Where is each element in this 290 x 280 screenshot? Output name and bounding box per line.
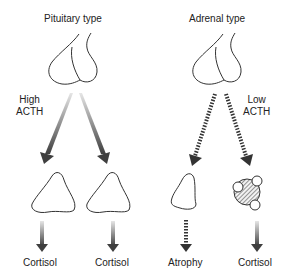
adrenal-gland-hyperplastic-1	[32, 173, 75, 213]
acth-arrow-left-1	[40, 93, 73, 164]
adrenal-type-title: Adrenal type	[189, 13, 245, 25]
pituitary-type-title: Pituitary type	[44, 13, 102, 25]
low-acth-label: Low ACTH	[243, 94, 270, 118]
cortisol-arrow-2	[107, 221, 119, 252]
pituitary-gland-left	[49, 33, 97, 84]
output-label-cortisol-1: Cortisol	[23, 257, 57, 269]
output-label-atrophy: Atrophy	[168, 257, 202, 269]
output-label-cortisol-3: Cortisol	[238, 257, 272, 269]
low-acth-line2: ACTH	[243, 106, 270, 118]
acth-arrow-right-dashed-1	[189, 94, 215, 166]
pituitary-gland-right	[193, 33, 241, 84]
diagram-canvas	[0, 0, 290, 280]
output-label-cortisol-2: Cortisol	[95, 257, 129, 269]
high-acth-line1: High	[16, 94, 43, 106]
atrophy-arrow-dashed	[180, 220, 192, 252]
adrenal-tumor	[233, 176, 262, 210]
low-acth-line1: Low	[243, 94, 270, 106]
cortisol-arrow-3	[251, 221, 263, 252]
high-acth-line2: ACTH	[16, 106, 43, 118]
adrenal-gland-atrophic	[171, 174, 196, 209]
high-acth-label: High ACTH	[16, 94, 43, 118]
cortisol-arrow-1	[36, 221, 48, 252]
acth-arrow-left-2	[79, 93, 110, 164]
adrenal-gland-hyperplastic-2	[87, 173, 130, 213]
